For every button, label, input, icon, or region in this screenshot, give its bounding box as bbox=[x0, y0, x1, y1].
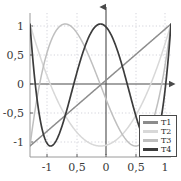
legend-swatch-t2 bbox=[143, 130, 158, 133]
chebyshev-polynomial-chart: 1 0,5 0 -0,5 -1 -1 0,5 0 0,5 1 T1T2T3T4 bbox=[0, 0, 181, 181]
legend-label-t4: T4 bbox=[161, 146, 171, 154]
legend-swatch-t1 bbox=[143, 121, 158, 124]
legend-item-t1[interactable]: T1 bbox=[142, 118, 174, 127]
x-tick-label-neg0p5: 0,5 bbox=[63, 162, 91, 173]
legend-label-t3: T3 bbox=[161, 137, 171, 145]
y-tick-label-1: 1 bbox=[2, 21, 24, 32]
legend-swatch-t4 bbox=[143, 148, 158, 151]
legend-item-t2[interactable]: T2 bbox=[142, 127, 174, 136]
legend-item-t4[interactable]: T4 bbox=[142, 145, 174, 154]
x-tick-label-1: 1 bbox=[151, 162, 179, 173]
y-tick-label-neg0p5: -0,5 bbox=[0, 108, 24, 119]
legend-label-t1: T1 bbox=[161, 119, 171, 127]
y-tick-label-neg1: -1 bbox=[0, 137, 24, 148]
x-tick-label-0: 0 bbox=[92, 162, 120, 173]
x-tick-label-neg1: -1 bbox=[33, 162, 61, 173]
x-tick-label-0p5: 0,5 bbox=[122, 162, 150, 173]
y-tick-label-0p5: 0,5 bbox=[2, 50, 24, 61]
chart-legend[interactable]: T1T2T3T4 bbox=[139, 115, 177, 157]
legend-label-t2: T2 bbox=[161, 128, 171, 136]
legend-swatch-t3 bbox=[143, 139, 158, 142]
legend-item-t3[interactable]: T3 bbox=[142, 136, 174, 145]
y-tick-label-0: 0 bbox=[2, 79, 24, 90]
